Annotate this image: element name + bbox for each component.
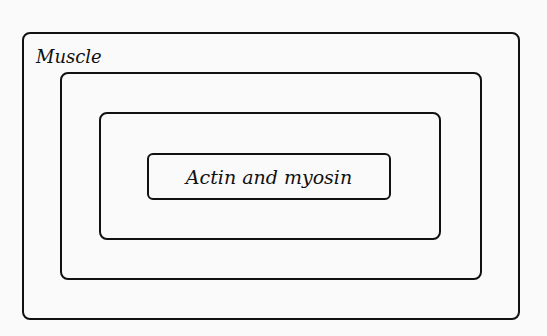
actin-myosin-box: Actin and myosin bbox=[147, 153, 391, 200]
actin-myosin-label: Actin and myosin bbox=[186, 166, 352, 188]
muscle-label: Muscle bbox=[36, 46, 102, 67]
